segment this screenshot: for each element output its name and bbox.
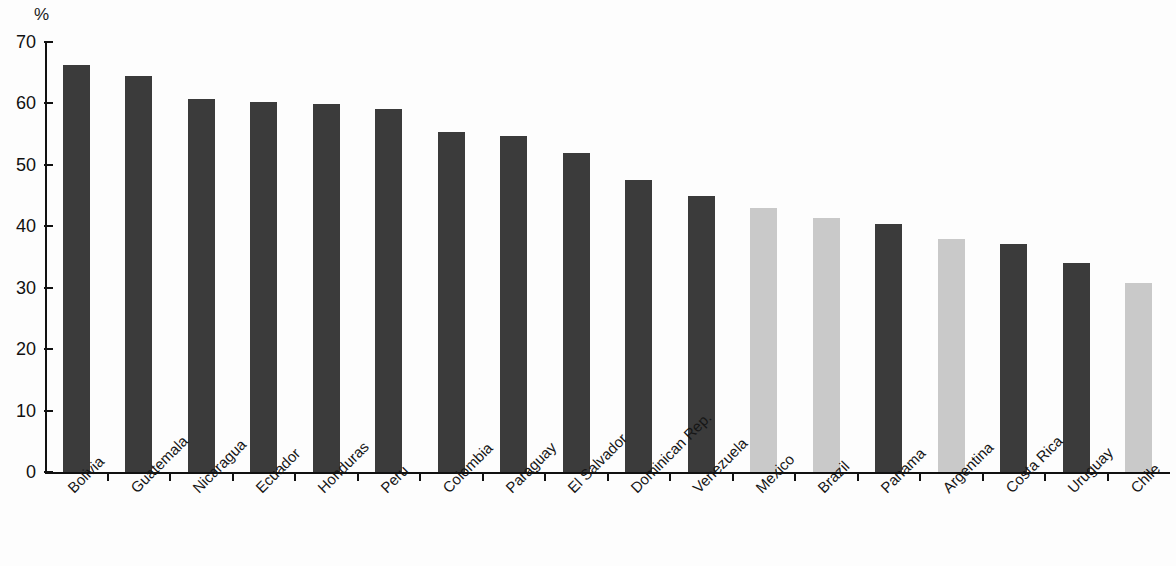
y-axis-tick-label: 20 <box>16 339 36 360</box>
plot-area: 706050403020100 <box>45 42 1170 472</box>
y-axis-tick-mark <box>44 164 53 166</box>
y-axis-tick-mark <box>44 287 53 289</box>
y-axis-tick-label: 10 <box>16 400 36 421</box>
y-axis-tick-label: 60 <box>16 93 36 114</box>
bar <box>500 136 527 472</box>
bar <box>63 65 90 472</box>
y-axis-tick-label: 40 <box>16 216 36 237</box>
y-axis-tick-label: 30 <box>16 277 36 298</box>
y-axis-line <box>45 42 47 472</box>
y-axis-tick-mark <box>44 41 53 43</box>
y-axis-tick-label: 0 <box>26 462 36 483</box>
y-axis-tick-mark <box>44 348 53 350</box>
bar <box>813 218 840 472</box>
bar <box>375 109 402 472</box>
y-axis-tick-label: 50 <box>16 154 36 175</box>
bar <box>1125 283 1152 472</box>
bar <box>188 99 215 472</box>
y-axis-tick-mark <box>44 410 53 412</box>
bar <box>250 102 277 472</box>
bar <box>750 208 777 472</box>
y-axis-tick-label: 70 <box>16 32 36 53</box>
bar <box>625 180 652 472</box>
bar <box>125 76 152 472</box>
bar <box>1000 244 1027 472</box>
bar <box>563 153 590 472</box>
bar <box>313 104 340 472</box>
y-axis-tick-mark <box>44 102 53 104</box>
bar <box>938 239 965 472</box>
chart-page: % 706050403020100 BoliviaGuatemalaNicara… <box>0 0 1176 566</box>
bar <box>438 132 465 472</box>
bar <box>875 224 902 472</box>
y-axis-tick-mark <box>44 225 53 227</box>
x-axis-category-labels: BoliviaGuatemalaNicaraguaEcuadorHonduras… <box>45 478 1170 566</box>
bar <box>1063 263 1090 472</box>
y-axis-unit-label: % <box>34 6 49 23</box>
y-axis-tick-mark <box>44 471 53 473</box>
